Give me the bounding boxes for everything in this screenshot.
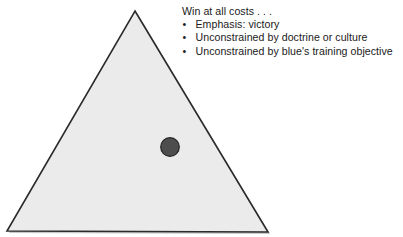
bullet-point-icon: •: [183, 45, 187, 58]
callout-bullet-item: • Emphasis: victory: [182, 18, 403, 31]
callout-bullet-item: • Unconstrained by blue's training objec…: [182, 45, 403, 58]
callout-bullet-label: Unconstrained by doctrine or culture: [196, 31, 368, 43]
callout-headline: Win at all costs . . .: [182, 5, 403, 18]
callout-bullet-item: • Unconstrained by doctrine or culture: [182, 31, 403, 44]
callout-bullet-label: Emphasis: victory: [196, 18, 280, 30]
bullet-point-icon: •: [183, 18, 187, 31]
callout-text-block: Win at all costs . . . • Emphasis: victo…: [182, 5, 403, 58]
callout-bullet-list: • Emphasis: victory • Unconstrained by d…: [182, 18, 403, 58]
position-marker-circle: [161, 138, 180, 157]
callout-bullet-label: Unconstrained by blue's training objecti…: [196, 45, 393, 57]
slide-canvas: Win at all costs . . . • Emphasis: victo…: [0, 0, 403, 237]
bullet-point-icon: •: [183, 31, 187, 44]
